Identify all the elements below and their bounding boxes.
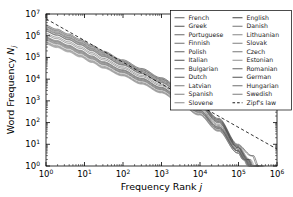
y-tick-label: 105 <box>25 51 40 62</box>
x-tick-label: 101 <box>77 168 92 179</box>
legend-label-portuguese[interactable]: Portuguese <box>189 31 224 39</box>
legend[interactable]: FrenchGreekPortugueseFinnishPolishItalia… <box>171 11 292 111</box>
zipf-law-loglog-chart: 1001011021031041051061001011021031041051… <box>0 0 293 197</box>
legend-label-italian[interactable]: Italian <box>189 56 208 63</box>
x-axis-label: Frequency Rank j <box>121 181 203 192</box>
x-tick-label: 100 <box>39 168 54 179</box>
legend-label-bulgarian[interactable]: Bulgarian <box>189 65 219 73</box>
y-tick-label: 101 <box>25 138 40 149</box>
legend-label-german[interactable]: German <box>247 73 272 80</box>
y-tick-label: 102 <box>25 116 40 127</box>
y-tick-label: 104 <box>25 73 40 84</box>
x-tick-label: 105 <box>231 168 246 179</box>
legend-label-swedish[interactable]: Swedish <box>247 90 273 97</box>
legend-label-czech[interactable]: Czech <box>247 48 266 55</box>
x-tick-label: 102 <box>116 168 131 179</box>
y-tick-label: 103 <box>25 94 40 105</box>
y-tick-label: 107 <box>25 8 40 19</box>
x-tick-label: 103 <box>154 168 169 179</box>
legend-label-lithuanian[interactable]: Lithuanian <box>247 31 280 38</box>
legend-label-zipf-s-law[interactable]: Zipf's law <box>247 99 277 107</box>
legend-label-danish[interactable]: Danish <box>247 22 268 29</box>
legend-label-french[interactable]: French <box>189 14 210 21</box>
legend-label-slovene[interactable]: Slovene <box>189 99 214 106</box>
y-tick-label: 106 <box>25 29 40 40</box>
legend-label-dutch[interactable]: Dutch <box>189 73 208 80</box>
legend-label-estonian[interactable]: Estonian <box>247 56 274 63</box>
x-tick-label: 104 <box>193 168 208 179</box>
legend-label-slovak[interactable]: Slovak <box>247 39 268 46</box>
legend-label-finnish[interactable]: Finnish <box>189 39 211 46</box>
legend-label-latvian[interactable]: Latvian <box>189 82 212 89</box>
legend-label-polish[interactable]: Polish <box>189 48 207 55</box>
legend-label-spanish[interactable]: Spanish <box>189 90 214 98</box>
legend-label-english[interactable]: English <box>247 14 269 22</box>
y-axis-label: Word Frequency Nj <box>5 46 18 135</box>
figure-container: 1001011021031041051061001011021031041051… <box>0 0 293 197</box>
legend-label-greek[interactable]: Greek <box>189 22 208 29</box>
legend-label-hungarian[interactable]: Hungarian <box>247 82 279 90</box>
x-tick-label: 106 <box>270 168 285 179</box>
legend-label-romanian[interactable]: Romanian <box>247 65 278 72</box>
